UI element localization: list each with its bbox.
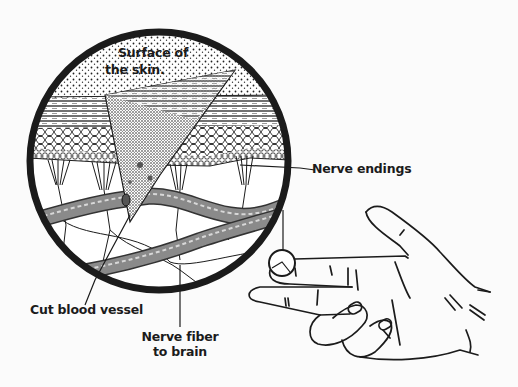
label-nerve-endings: Nerve endings <box>312 162 411 176</box>
label-surface-of-skin-line1: Surface of <box>118 46 188 60</box>
cut-vessel-end <box>122 194 130 206</box>
finger-magnify-marker <box>269 250 295 276</box>
label-nerve-fiber-line1: Nerve fiber <box>140 330 220 344</box>
label-cut-blood-vessel: Cut blood vessel <box>30 303 143 317</box>
skin-nerve-diagram: Surface of the skin. Nerve endings Cut b… <box>0 0 518 387</box>
label-nerve-fiber-line2: to brain <box>140 345 220 359</box>
diagram-canvas <box>0 0 518 387</box>
hand-illustration <box>249 206 490 359</box>
label-surface-of-skin-line2: the skin. <box>105 63 165 77</box>
